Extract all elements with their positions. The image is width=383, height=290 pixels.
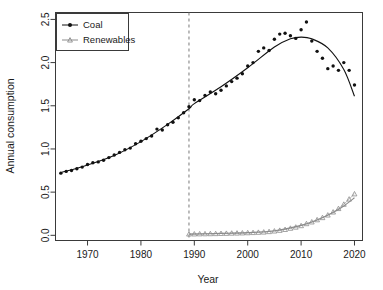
data-point — [182, 111, 185, 114]
data-point — [129, 146, 132, 149]
data-point — [75, 167, 78, 170]
x-tick-label: 2020 — [343, 249, 366, 260]
x-tick-label: 2010 — [290, 249, 313, 260]
chart-plot-svg: 197019801990200020102020 0.00.51.01.52.0… — [0, 0, 383, 290]
data-point — [315, 50, 318, 53]
data-point — [209, 90, 212, 93]
data-point — [198, 99, 201, 102]
data-point — [177, 116, 180, 119]
data-point — [289, 34, 292, 37]
data-point — [134, 142, 137, 145]
chart-figure: 197019801990200020102020 0.00.51.01.52.0… — [0, 0, 383, 290]
x-axis-title: Year — [197, 273, 219, 285]
data-point — [262, 46, 265, 49]
data-point — [294, 37, 297, 40]
y-tick-label: 1.5 — [40, 98, 51, 112]
data-point — [203, 94, 206, 97]
x-tick-label: 1990 — [183, 249, 206, 260]
data-point — [139, 139, 142, 142]
data-point — [91, 161, 94, 164]
data-point — [145, 137, 148, 140]
data-point — [225, 84, 228, 87]
data-point — [273, 38, 276, 41]
data-point — [86, 163, 89, 166]
legend-label-coal: Coal — [83, 19, 103, 30]
data-point — [107, 156, 110, 159]
data-point — [278, 32, 281, 35]
chart-legend: CoalRenewables — [57, 14, 136, 51]
data-point — [70, 169, 73, 172]
data-point — [267, 49, 270, 52]
x-tick-label: 2000 — [237, 249, 260, 260]
data-point — [235, 76, 238, 79]
data-point — [347, 69, 350, 72]
data-point — [161, 128, 164, 131]
legend-marker-coal — [68, 23, 72, 27]
data-point — [310, 39, 313, 42]
data-point — [214, 92, 217, 95]
data-point — [257, 50, 260, 53]
data-point — [187, 105, 190, 108]
data-point — [326, 67, 329, 70]
data-point — [59, 171, 62, 174]
data-point — [342, 61, 345, 64]
data-point — [246, 64, 249, 67]
data-point — [321, 57, 324, 60]
data-point — [230, 80, 233, 83]
legend-label-renewables: Renewables — [83, 34, 136, 45]
data-point — [219, 89, 222, 92]
data-point — [305, 20, 308, 23]
data-point — [241, 72, 244, 75]
data-point — [171, 120, 174, 123]
data-point — [155, 127, 158, 130]
data-point — [123, 148, 126, 151]
data-point — [97, 160, 100, 163]
data-point — [193, 98, 196, 101]
y-tick-label: 0.5 — [40, 185, 51, 199]
y-tick-label: 2.0 — [40, 55, 51, 69]
data-point — [81, 165, 84, 168]
data-point — [337, 69, 340, 72]
data-point — [150, 134, 153, 137]
data-point — [353, 83, 356, 86]
data-point — [331, 64, 334, 67]
x-tick-label: 1970 — [76, 249, 99, 260]
x-tick-label: 1980 — [130, 249, 153, 260]
data-point — [118, 151, 121, 154]
data-point — [251, 61, 254, 64]
data-point — [283, 32, 286, 35]
y-axis-title: Annual consumption — [4, 78, 16, 173]
data-point — [64, 170, 67, 173]
y-tick-label: 2.5 — [40, 12, 51, 26]
y-tick-label: 0.0 — [40, 228, 51, 242]
data-point — [299, 28, 302, 31]
data-point — [113, 153, 116, 156]
y-tick-label: 1.0 — [40, 142, 51, 156]
data-point — [102, 158, 105, 161]
data-point — [166, 123, 169, 126]
